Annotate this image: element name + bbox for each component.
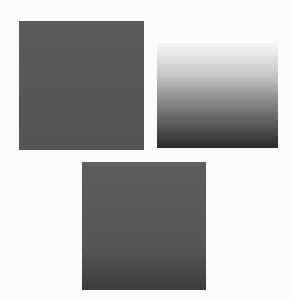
top-right-gradient-square: [157, 43, 278, 148]
bottom-square: [82, 162, 206, 290]
top-left-square: [19, 21, 144, 150]
